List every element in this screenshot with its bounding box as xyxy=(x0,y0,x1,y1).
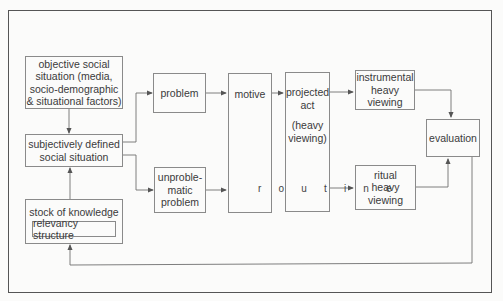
subjective-line-1: subjectively defined xyxy=(28,138,120,151)
objective-line-3: socio-demographic xyxy=(30,83,119,96)
evaluation-box: evaluation xyxy=(426,119,480,157)
relevancy-structure-box: relevancy structure xyxy=(32,221,116,237)
problem-box: problem xyxy=(153,73,206,113)
projected-line-2: act xyxy=(300,99,314,112)
projected-line-1: projected xyxy=(286,86,329,99)
objective-line-2: situation (media, xyxy=(35,70,112,83)
unproblematic-line-3: problem xyxy=(161,196,199,209)
unproblematic-problem-box: unproble- matic problem xyxy=(154,167,206,213)
instrumental-line-3: viewing xyxy=(367,96,402,109)
problem-label: problem xyxy=(161,87,199,100)
projected-line-5: viewing) xyxy=(288,132,327,145)
unproblematic-line-2: matic xyxy=(167,184,192,197)
unproblematic-line-1: unproble- xyxy=(158,171,202,184)
ritual-line-3: viewing xyxy=(368,194,403,207)
objective-line-4: & situational factors) xyxy=(26,95,121,108)
evaluation-label: evaluation xyxy=(429,132,477,145)
subjective-line-2: social situation xyxy=(40,151,109,164)
objective-social-situation-box: objective social situation (media, socio… xyxy=(25,56,123,109)
routine-label: r o u t i n e xyxy=(258,183,399,194)
instrumental-line-1: instrumental xyxy=(356,71,413,84)
relevancy-label: relevancy structure xyxy=(33,217,115,241)
motive-label: motive xyxy=(235,88,266,101)
projected-line-4: (heavy xyxy=(292,119,324,132)
objective-line-1: objective social xyxy=(38,58,109,71)
instrumental-heavy-viewing-box: instrumental heavy viewing xyxy=(355,70,415,110)
ritual-line-1: ritual xyxy=(374,169,397,182)
subjective-social-situation-box: subjectively defined social situation xyxy=(25,134,123,167)
instrumental-line-2: heavy xyxy=(371,84,399,97)
